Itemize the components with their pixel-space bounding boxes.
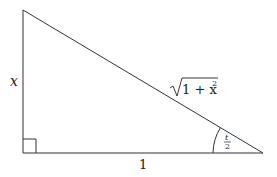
angle-numerator: t: [225, 133, 229, 142]
angle-denominator: 2: [225, 142, 230, 151]
label-hypotenuse: 1 + x 2: [170, 78, 218, 97]
hypotenuse: [23, 10, 263, 153]
label-angle: t 2: [224, 133, 231, 151]
hypotenuse-exponent: 2: [212, 79, 217, 88]
label-vertical-side: x: [10, 73, 18, 89]
triangle-diagram: x 1 1 + x 2 t 2: [0, 0, 277, 177]
angle-arc: [213, 128, 221, 154]
label-horizontal-side: 1: [139, 157, 147, 172]
right-angle-marker: [23, 139, 36, 153]
